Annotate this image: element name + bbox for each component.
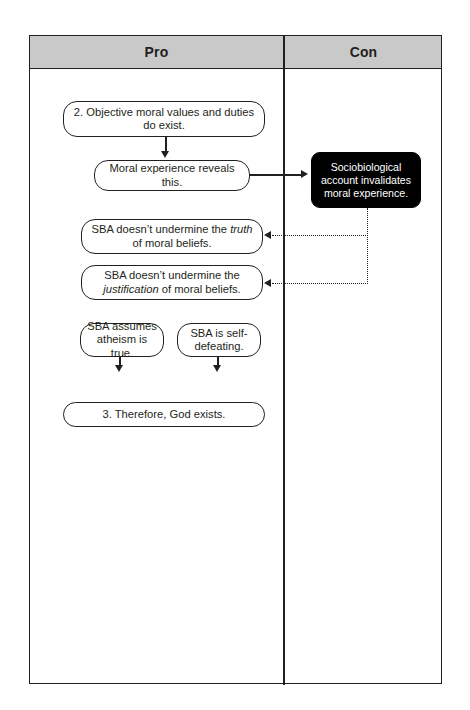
edge-objective-to-moral-experience	[165, 137, 167, 152]
edge-sociobiological-to-justification	[272, 283, 368, 284]
node-sba-truth-text-tail: of moral beliefs.	[133, 237, 212, 249]
node-objective-moral-values[interactable]: 2. Objective moral values and duties do …	[63, 101, 265, 137]
column-divider	[283, 36, 285, 685]
arrowhead-left-icon	[264, 231, 271, 239]
node-sba-truth[interactable]: SBA doesn’t undermine the truth of moral…	[81, 219, 263, 254]
table-header-row: Pro Con	[30, 36, 441, 69]
node-sociobiological-account-label: Sociobiological account invalidates mora…	[318, 161, 414, 200]
node-sba-justification-text-tail: of moral beliefs.	[159, 283, 241, 295]
edge-moral-experience-to-sociobiological	[250, 174, 303, 176]
node-sba-assumes-atheism-label: SBA assumes atheism is true.	[87, 320, 157, 360]
pro-con-flowchart: Pro Con 2. Objective moral values and du…	[0, 0, 470, 710]
node-sociobiological-account[interactable]: Sociobiological account invalidates mora…	[311, 152, 421, 208]
arrowhead-down-icon	[213, 365, 221, 372]
node-moral-experience[interactable]: Moral experience reveals this.	[94, 160, 250, 191]
column-header-con: Con	[292, 36, 435, 67]
node-therefore-god-exists[interactable]: 3. Therefore, God exists.	[63, 402, 265, 427]
edge-sociobiological-to-truth	[272, 235, 368, 236]
arrowhead-down-icon	[115, 365, 123, 372]
column-header-pro: Pro	[43, 36, 271, 67]
arrowhead-right-icon	[301, 170, 308, 178]
node-moral-experience-label: Moral experience reveals this.	[101, 162, 243, 189]
node-sba-self-defeating-label: SBA is self-defeating.	[184, 327, 254, 354]
arrowhead-down-icon	[161, 151, 169, 158]
node-sba-justification-text-lead: SBA doesn’t undermine the	[104, 269, 240, 281]
node-sba-truth-text-lead: SBA doesn’t undermine the	[91, 223, 230, 235]
node-sba-truth-label: SBA doesn’t undermine the truth of moral…	[88, 223, 256, 250]
node-therefore-god-exists-label: 3. Therefore, God exists.	[70, 408, 258, 421]
node-sba-justification-label: SBA doesn’t undermine the justification …	[88, 269, 256, 296]
node-sba-truth-emphasis: truth	[230, 223, 252, 235]
edge-sociobiological-trunk	[367, 208, 368, 284]
node-sba-justification[interactable]: SBA doesn’t undermine the justification …	[81, 265, 263, 300]
node-sba-assumes-atheism[interactable]: SBA assumes atheism is true.	[80, 323, 164, 357]
node-sba-self-defeating[interactable]: SBA is self-defeating.	[177, 323, 261, 357]
node-sba-justification-emphasis: justification	[103, 283, 158, 295]
node-objective-moral-values-label: 2. Objective moral values and duties do …	[70, 106, 258, 133]
arrowhead-left-icon	[264, 279, 271, 287]
